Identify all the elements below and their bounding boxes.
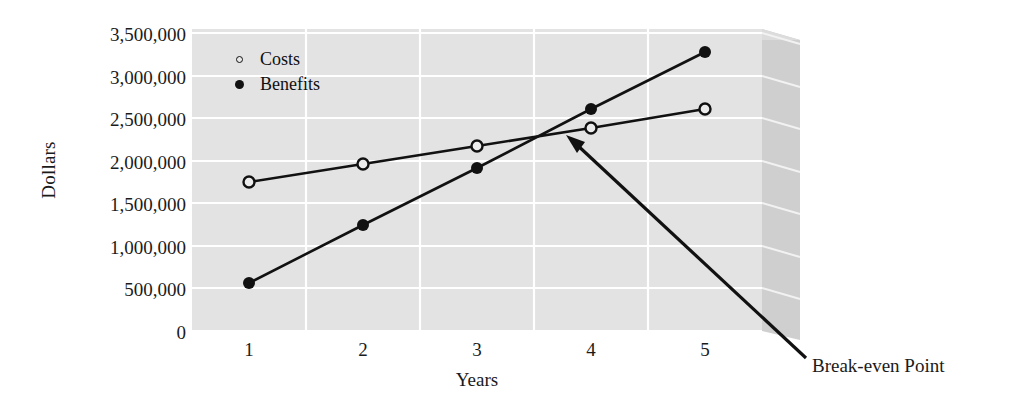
x-tick-label: 1 bbox=[229, 339, 269, 361]
y-axis-tick-labels: 3,500,000 3,000,000 2,500,000 2,000,000 … bbox=[76, 0, 186, 403]
legend-item-label: Costs bbox=[250, 49, 300, 70]
legend-item-label: Benefits bbox=[250, 74, 320, 95]
legend-item-benefits: Benefits bbox=[228, 72, 320, 97]
break-even-chart-figure: Dollars 3,500,000 3,000,000 2,500,000 2,… bbox=[0, 0, 1014, 403]
y-tick-label: 2,500,000 bbox=[76, 110, 186, 129]
y-tick-label: 1,500,000 bbox=[76, 195, 186, 214]
x-tick-label: 5 bbox=[685, 339, 725, 361]
x-tick-label: 2 bbox=[343, 339, 383, 361]
filled-circle-icon bbox=[228, 80, 250, 89]
open-circle-icon bbox=[228, 56, 250, 63]
x-axis-tick-labels: 1 2 3 4 5 bbox=[192, 339, 762, 369]
x-tick-label: 3 bbox=[457, 339, 497, 361]
y-axis-title: Dollars bbox=[38, 110, 60, 230]
y-tick-label: 1,000,000 bbox=[76, 238, 186, 257]
y-tick-label: 0 bbox=[76, 323, 186, 342]
breakeven-point-annotation-label: Break-even Point bbox=[812, 355, 944, 377]
x-axis-title: Years bbox=[192, 369, 762, 391]
y-tick-label: 2,000,000 bbox=[76, 153, 186, 172]
y-tick-label: 500,000 bbox=[76, 280, 186, 299]
y-tick-label: 3,000,000 bbox=[76, 68, 186, 87]
chart-legend: Costs Benefits bbox=[228, 47, 320, 97]
y-tick-label: 3,500,000 bbox=[76, 25, 186, 44]
legend-item-costs: Costs bbox=[228, 47, 320, 72]
x-tick-label: 4 bbox=[571, 339, 611, 361]
